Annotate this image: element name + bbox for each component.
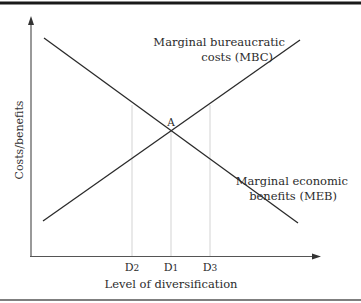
x-tick-d2-main: D	[125, 261, 134, 274]
meb-label-line1: Marginal economic	[236, 174, 348, 189]
y-axis-arrow-icon	[28, 16, 34, 25]
x-tick-d1-sub: 1	[173, 263, 179, 273]
intersection-point-label: A	[167, 116, 175, 128]
x-tick-d3-main: D	[203, 261, 212, 274]
meb-label: Marginal economic benefits (MEB)	[236, 174, 348, 204]
mbc-label-line2: costs (MBC)	[153, 50, 285, 65]
mbc-label-line1: Marginal bureaucratic	[153, 35, 285, 50]
x-tick-d1-main: D	[164, 261, 173, 274]
diversification-diagram: Costs/benefits A Marginal bureaucratic c…	[0, 0, 361, 303]
mbc-label: Marginal bureaucratic costs (MBC)	[153, 35, 285, 65]
x-tick-d1: D1	[164, 261, 179, 274]
x-tick-d3: D3	[203, 261, 218, 274]
x-axis-arrow-icon	[312, 254, 321, 260]
x-axis-label: Level of diversification	[105, 277, 238, 291]
y-axis-label: Costs/benefits	[13, 100, 26, 179]
meb-label-line2: benefits (MEB)	[236, 189, 348, 204]
x-tick-d3-sub: 3	[212, 263, 218, 273]
x-tick-d2-sub: 2	[134, 263, 140, 273]
x-tick-d2: D2	[125, 261, 140, 274]
